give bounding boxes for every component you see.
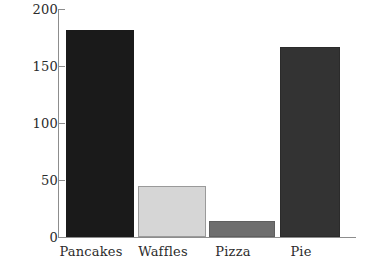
y-tick-label-0: 0	[12, 231, 58, 244]
bar-pancakes	[66, 30, 134, 237]
y-tick-group-50: 50	[0, 180, 58, 181]
bar-chart: 200 150 100 50 0 Pancakes Waffles Pizza …	[0, 0, 374, 265]
bar-pie	[280, 47, 340, 237]
y-tick-mark-0	[58, 237, 65, 238]
plot-area	[59, 9, 355, 237]
bar-waffles	[138, 186, 206, 237]
y-tick-label-50: 50	[12, 174, 58, 187]
y-tick-group-0: 0	[0, 237, 58, 238]
y-tick-group-150: 150	[0, 66, 58, 67]
y-tick-group-100: 100	[0, 123, 58, 124]
y-tick-label-200: 200	[12, 3, 58, 16]
bar-pizza	[209, 221, 275, 237]
y-tick-label-100: 100	[12, 117, 58, 130]
x-axis-line	[58, 237, 356, 238]
y-tick-label-150: 150	[12, 60, 58, 73]
y-tick-group-200: 200	[0, 9, 58, 10]
x-tick-label-pie: Pie	[251, 245, 351, 258]
